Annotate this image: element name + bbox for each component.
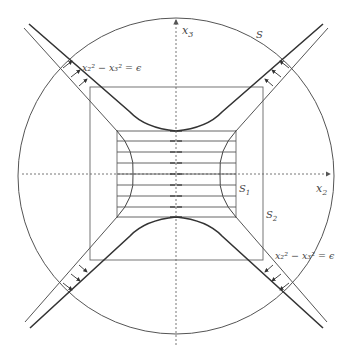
- sphere-s-label: S: [256, 29, 263, 40]
- hyperbola-equation-top: x₂² − x₃² = ϵ: [82, 62, 142, 73]
- hyperbola-equation-bottom: x₂² − x₃² = ϵ: [275, 250, 335, 261]
- square-s2: [90, 87, 263, 260]
- hyperbola-branch-bottom: [30, 217, 323, 328]
- diag-line-top-right: [236, 28, 328, 131]
- flow-lines: [117, 131, 236, 217]
- s2-label: S2: [266, 209, 278, 223]
- hyperbola-diagram: x3 x2 S S1 S2 x₂² − x₃² = ϵ x₂² − x₃² = …: [0, 0, 348, 353]
- diag-line-bottom-right: [236, 217, 327, 322]
- diag-line-top-left: [24, 28, 117, 131]
- s1-label: S1: [239, 183, 250, 197]
- diag-line-bottom-left: [25, 217, 117, 322]
- x2-axis-label: x2: [316, 182, 327, 197]
- x3-axis-label: x3: [182, 24, 193, 39]
